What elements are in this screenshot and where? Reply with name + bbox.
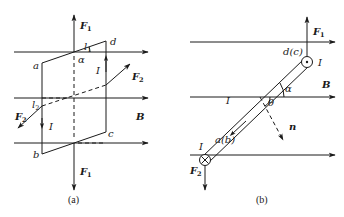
label-current-bottom: I xyxy=(198,141,204,152)
panel-a: F1 l1 d α a I F2 l2 F2 I B c b F1 (a) xyxy=(14,15,148,206)
panel-b: F1 d(c) I B α I θ n I a(b) F2 (b) xyxy=(189,17,335,206)
label-f1-b: F1 xyxy=(312,26,325,39)
label-corner-b: b xyxy=(33,149,39,160)
label-a-b: a(b) xyxy=(215,134,235,145)
label-alpha-b: α xyxy=(285,83,292,94)
label-corner-c: c xyxy=(108,128,114,139)
label-f1-bottom: F1 xyxy=(79,166,92,179)
loop-back-edge-l2 xyxy=(42,85,106,106)
caption-b: (b) xyxy=(256,194,268,206)
rod-edge-lower xyxy=(208,65,310,163)
label-angle-alpha: α xyxy=(78,54,85,65)
label-current-right: I xyxy=(95,65,101,76)
label-d-c: d(c) xyxy=(283,46,303,57)
label-field-b-b: B xyxy=(321,79,330,90)
rod-current-arrow xyxy=(232,121,246,134)
force-f2-right-arrow xyxy=(106,64,130,85)
angle-alpha-arc-b xyxy=(280,83,284,97)
label-normal-n: n xyxy=(289,121,296,132)
caption-a: (a) xyxy=(68,194,79,206)
label-field-b-a: B xyxy=(135,111,144,122)
label-l2: l2 xyxy=(32,99,39,112)
label-current-top: I xyxy=(317,57,323,68)
label-f2-b: F2 xyxy=(189,165,202,178)
label-f2-right: F2 xyxy=(131,71,144,84)
label-f2-left: F2 xyxy=(14,111,27,124)
figure-canvas: F1 l1 d α a I F2 l2 F2 I B c b F1 (a) xyxy=(0,0,344,217)
label-corner-a: a xyxy=(33,60,39,71)
label-theta: θ xyxy=(268,97,274,108)
label-corner-d: d xyxy=(110,36,116,47)
current-out-dot xyxy=(306,61,308,63)
label-current-left: I xyxy=(48,121,54,132)
label-f1-top: F1 xyxy=(79,20,92,33)
